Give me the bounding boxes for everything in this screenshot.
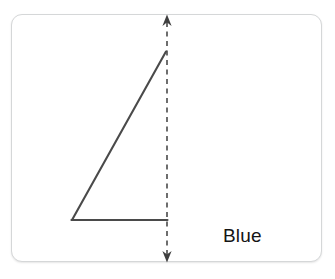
vector-figure [0, 0, 335, 279]
triangle-group [71, 52, 167, 221]
blue-label: Blue [223, 225, 262, 247]
triangle-hypotenuse [72, 52, 166, 221]
figure-canvas: Blue [0, 0, 335, 279]
